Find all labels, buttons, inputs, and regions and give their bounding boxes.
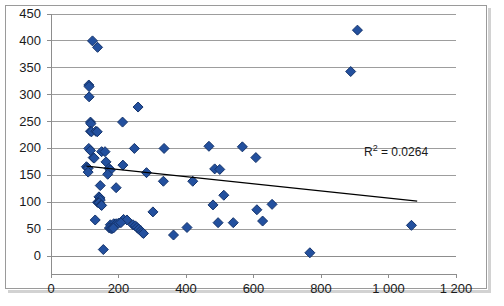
x-axis-tick-label: 1 000 xyxy=(359,282,419,295)
plot-area xyxy=(0,0,504,306)
horizontal-gridlines xyxy=(51,14,456,256)
x-axis-tick-label: 200 xyxy=(89,282,149,295)
x-axis-tick-label: 1 200 xyxy=(426,282,486,295)
r-squared-annotation: R2 = 0.0264 xyxy=(364,142,428,158)
y-axis-tick-label: 100 xyxy=(0,195,41,208)
y-axis-tick-marks xyxy=(47,14,51,256)
x-axis-tick-marks xyxy=(51,274,456,278)
y-axis-tick-label: 0 xyxy=(0,249,41,262)
r2-value: = 0.0264 xyxy=(378,145,428,159)
r2-prefix: R xyxy=(364,145,373,159)
y-axis-tick-label: 300 xyxy=(0,88,41,101)
y-axis-tick-label: 150 xyxy=(0,168,41,181)
y-axis-tick-label: 450 xyxy=(0,7,41,20)
y-axis-tick-label: 50 xyxy=(0,222,41,235)
y-axis-tick-label: 350 xyxy=(0,61,41,74)
scatter-chart-figure: 050100150200250300350400450 020040060080… xyxy=(0,0,504,306)
x-axis-tick-label: 800 xyxy=(291,282,351,295)
x-axis-tick-label: 400 xyxy=(156,282,216,295)
x-axis-tick-label: 600 xyxy=(224,282,284,295)
y-axis-tick-label: 250 xyxy=(0,115,41,128)
trendline xyxy=(86,166,417,201)
y-axis-tick-label: 400 xyxy=(0,34,41,47)
y-axis-tick-label: 200 xyxy=(0,141,41,154)
x-axis-tick-label: 0 xyxy=(21,282,81,295)
